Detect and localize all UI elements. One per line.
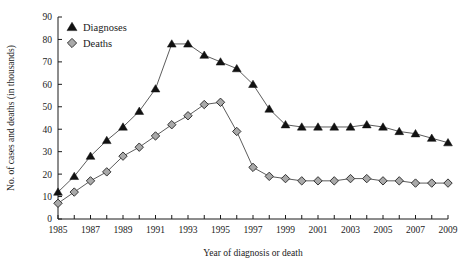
y-tick-label: 40	[43, 125, 53, 135]
x-tick-label: 1993	[179, 225, 198, 235]
data-point-triangle	[314, 123, 323, 130]
data-point-triangle	[232, 64, 241, 71]
x-tick-label: 2001	[309, 225, 328, 235]
line-chart: 0102030405060708090 19851987198919911993…	[0, 0, 466, 275]
data-point-diamond	[249, 163, 257, 171]
data-point-diamond	[70, 188, 78, 196]
y-tick-label: 80	[43, 35, 53, 45]
x-axis-ticks: 1985198719891991199319951997199920012003…	[49, 215, 458, 235]
data-point-diamond	[86, 177, 94, 185]
x-tick-label: 1991	[146, 225, 165, 235]
x-tick-label: 1987	[81, 225, 100, 235]
y-tick-label: 30	[43, 147, 53, 157]
y-tick-label: 70	[43, 57, 53, 67]
data-point-diamond	[168, 121, 176, 129]
data-point-triangle	[330, 123, 339, 130]
y-axis-title: No. of cases and deaths (in thousands)	[6, 45, 17, 191]
diamond-icon	[67, 38, 76, 47]
data-point-diamond	[346, 174, 354, 182]
data-point-triangle	[362, 121, 371, 128]
data-point-diamond	[314, 177, 322, 185]
data-point-diamond	[54, 199, 62, 207]
y-tick-label: 10	[43, 192, 53, 202]
data-point-diamond	[233, 127, 241, 135]
y-tick-label: 50	[43, 102, 53, 112]
x-tick-label: 1989	[114, 225, 133, 235]
data-point-triangle	[135, 107, 144, 114]
data-point-triangle	[184, 40, 193, 47]
triangle-icon	[67, 22, 77, 30]
data-point-diamond	[281, 174, 289, 182]
data-point-triangle	[216, 58, 225, 65]
x-tick-label: 2007	[406, 225, 425, 235]
x-tick-label: 2005	[374, 225, 393, 235]
data-point-diamond	[379, 177, 387, 185]
chart-legend: DiagnosesDeaths	[67, 22, 127, 49]
data-point-diamond	[428, 179, 436, 187]
data-point-diamond	[363, 174, 371, 182]
y-tick-label: 0	[47, 214, 52, 224]
x-tick-label: 2009	[439, 225, 458, 235]
data-point-diamond	[265, 172, 273, 180]
data-point-diamond	[184, 112, 192, 120]
data-point-diamond	[444, 179, 452, 187]
x-tick-label: 1985	[49, 225, 68, 235]
chart-figure: 0102030405060708090 19851987198919911993…	[0, 0, 466, 275]
data-point-diamond	[411, 179, 419, 187]
x-axis-title: Year of diagnosis or death	[203, 248, 303, 258]
series-layer	[54, 40, 453, 208]
data-point-diamond	[330, 177, 338, 185]
data-point-diamond	[298, 177, 306, 185]
data-point-triangle	[70, 172, 79, 179]
data-point-triangle	[167, 40, 176, 47]
data-point-diamond	[216, 98, 224, 106]
legend-label: Diagnoses	[83, 22, 127, 33]
x-tick-label: 1997	[244, 225, 263, 235]
data-point-triangle	[151, 85, 160, 92]
data-point-diamond	[395, 177, 403, 185]
y-tick-label: 20	[43, 170, 53, 180]
x-tick-label: 1999	[276, 225, 295, 235]
axes	[58, 17, 448, 219]
series-line-deaths	[58, 102, 448, 203]
y-tick-label: 60	[43, 80, 53, 90]
y-tick-label: 90	[43, 12, 53, 22]
data-point-diamond	[200, 100, 208, 108]
data-point-diamond	[151, 132, 159, 140]
x-tick-label: 1995	[211, 225, 230, 235]
data-point-triangle	[200, 51, 209, 58]
x-tick-label: 2003	[341, 225, 360, 235]
data-point-diamond	[135, 143, 143, 151]
data-point-triangle	[265, 105, 274, 112]
legend-label: Deaths	[83, 38, 112, 49]
